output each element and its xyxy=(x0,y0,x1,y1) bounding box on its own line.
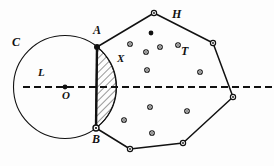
polygon-vertex-markers xyxy=(127,10,235,151)
point-a-marker xyxy=(94,44,100,50)
chord-ab xyxy=(96,47,97,128)
label-point-o: O xyxy=(62,90,70,101)
point-open-center xyxy=(199,71,201,73)
point-open-center xyxy=(146,69,148,71)
polygon-vertex-dot xyxy=(153,12,155,14)
label-point-set-t: T xyxy=(181,45,188,57)
label-circle-c: C xyxy=(12,36,20,48)
point-open-center xyxy=(149,106,151,108)
point-open-center xyxy=(129,43,131,45)
label-point-a: A xyxy=(93,24,101,36)
point-open-center xyxy=(123,119,125,121)
polygon-vertex-dot xyxy=(212,42,214,44)
geometry-figure: C L O A B X H T xyxy=(0,0,274,166)
polygon-vertex-dot xyxy=(129,148,131,150)
point-open-center xyxy=(159,46,161,48)
label-point-b: B xyxy=(92,133,100,145)
point-open-center xyxy=(177,44,179,46)
polygon-vertex-dot xyxy=(182,142,184,144)
label-polygon-h: H xyxy=(172,8,181,20)
point-open-center xyxy=(151,132,153,134)
polygon-vertex-dot xyxy=(232,96,234,98)
point-open-center xyxy=(145,51,147,53)
label-region-x: X xyxy=(117,53,124,64)
figure-canvas xyxy=(0,0,274,166)
point-b-center xyxy=(95,127,97,129)
point-open-center xyxy=(186,110,188,112)
label-line-l: L xyxy=(38,67,45,78)
polygon-vertex-centers xyxy=(129,12,234,150)
point-set-t xyxy=(122,31,203,136)
point-filled xyxy=(149,31,154,36)
